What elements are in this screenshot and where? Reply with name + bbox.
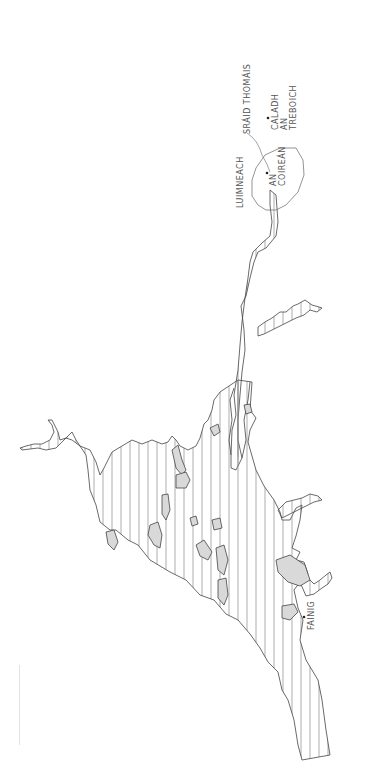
- label-luimneach: LUIMNEACH: [236, 156, 245, 208]
- label-an-coirean: AN COIREÁN: [269, 146, 287, 186]
- label-fainig: FAINIG: [307, 601, 316, 630]
- label-sraid-thomais: SRÁID THOMÁIS: [243, 64, 252, 134]
- label-caladh-an-treboich: CALADH AN TREBOICH: [271, 85, 298, 130]
- caladh-an-treboich-dot: [267, 117, 270, 120]
- an-coirean-dot: [266, 172, 269, 175]
- fainig-dot: [303, 616, 306, 619]
- estuary-map: [0, 0, 365, 762]
- page-edge-line: [19, 665, 20, 745]
